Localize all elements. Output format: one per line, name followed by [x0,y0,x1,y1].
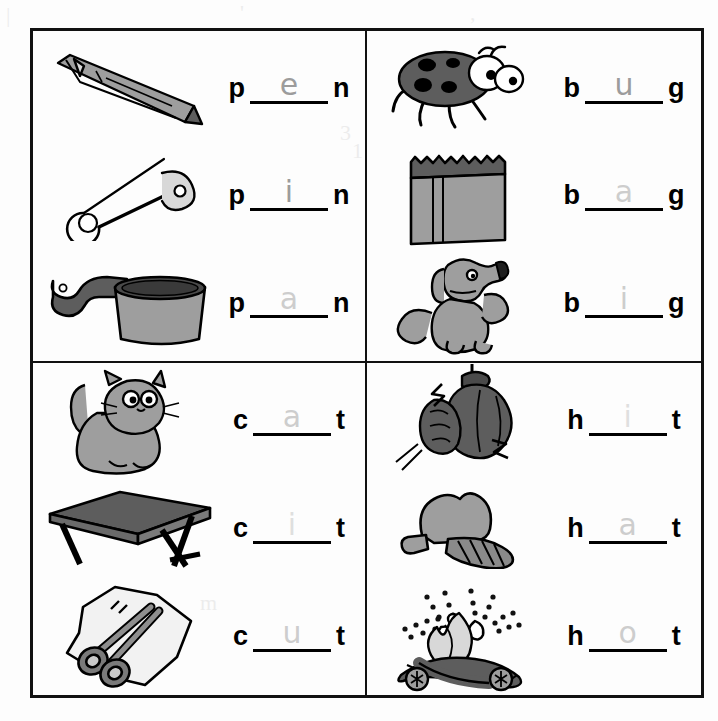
handwritten-answer: a [250,284,328,314]
quadrant-pen-family: p e n [33,31,367,363]
word-tail-letter: t [672,515,681,542]
scissors-paper-icon [39,583,219,691]
word-lead-letter: b [564,290,581,317]
exercise-row-pen: p e n [33,35,365,142]
quadrant-hat-family: h i t [367,363,701,695]
exercise-row-big: b i g [367,250,701,357]
word-slot-bug: b u g [553,74,695,104]
word-tail-letter: g [668,182,685,209]
exercise-row-cut: c u t [33,583,365,691]
word-slot-hit: h i t [553,406,695,436]
scan-speck: , [470,0,476,26]
word-lead-letter: p [229,182,246,209]
handwritten-answer: i [585,284,663,314]
word-slot-cut: c u t [219,622,359,652]
word-slot-cat: c a t [219,406,359,436]
word-tail-letter: n [333,290,350,317]
handwritten-answer: i [250,177,328,207]
word-tail-letter: n [333,75,350,102]
answer-blank[interactable]: i [250,181,328,211]
quadrant-bug-family: b u g [367,31,701,363]
pen-icon [39,35,219,142]
exercise-row-pan: p a n [33,250,365,357]
punching-bag-icon [373,367,553,475]
word-lead-letter: c [233,623,248,650]
worksheet-grid: p e n [30,28,704,698]
exercise-row-cot: c i t [33,475,365,583]
word-lead-letter: p [229,290,246,317]
answer-blank[interactable]: e [250,74,328,104]
word-lead-letter: h [567,515,584,542]
handwritten-answer: u [585,70,663,100]
handwritten-answer: a [585,177,663,207]
safety-pin-icon [39,142,219,249]
word-lead-letter: c [233,407,248,434]
word-slot-big: b i g [553,288,695,318]
answer-blank[interactable]: a [250,288,328,318]
exercise-row-hot: h o t [367,583,701,691]
word-tail-letter: t [336,515,345,542]
handwritten-answer: a [253,402,331,432]
exercise-row-hit: h i t [367,367,701,475]
word-slot-pin: p i n [219,181,359,211]
word-lead-letter: b [564,75,581,102]
cat-icon [39,367,219,475]
word-slot-hot: h o t [553,622,695,652]
exercise-row-pin: p i n [33,142,365,249]
cot-table-icon [39,475,219,583]
word-lead-letter: p [229,75,246,102]
word-lead-letter: h [567,623,584,650]
handwritten-answer: o [589,618,667,648]
paper-bag-icon [373,142,553,249]
answer-blank[interactable]: o [589,622,667,652]
exercise-row-hat: h a t [367,475,701,583]
word-tail-letter: g [668,75,685,102]
word-tail-letter: t [336,623,345,650]
word-tail-letter: t [672,407,681,434]
answer-blank[interactable]: a [253,406,331,436]
word-tail-letter: g [668,290,685,317]
handwritten-answer: u [253,618,331,648]
handwritten-answer: a [589,510,667,540]
answer-blank[interactable]: a [589,514,667,544]
exercise-row-bug: b u g [367,35,701,142]
worksheet-page: | ' , 3 1 m [0,0,718,721]
answer-blank[interactable]: i [253,514,331,544]
quadrant-cat-family: c a t [33,363,367,695]
word-slot-hat: h a t [553,514,695,544]
answer-blank[interactable]: i [585,288,663,318]
word-tail-letter: n [333,182,350,209]
exercise-row-cat: c a t [33,367,365,475]
word-slot-bag: b a g [553,181,695,211]
handwritten-answer: i [253,510,331,540]
word-slot-cot: c i t [219,514,359,544]
handwritten-answer: e [250,70,328,100]
word-slot-pen: p e n [219,74,359,104]
campfire-icon [373,583,553,691]
scan-speck: | [6,2,10,28]
word-lead-letter: c [233,515,248,542]
word-tail-letter: t [336,407,345,434]
answer-blank[interactable]: a [585,181,663,211]
word-lead-letter: b [564,182,581,209]
answer-blank[interactable]: u [253,622,331,652]
dog-icon [373,250,553,357]
scan-speck: ' [240,0,244,26]
answer-blank[interactable]: u [585,74,663,104]
handwritten-answer: i [589,402,667,432]
ladybug-icon [373,35,553,142]
word-slot-pan: p a n [219,288,359,318]
answer-blank[interactable]: i [589,406,667,436]
exercise-row-bag: b a g [367,142,701,249]
word-tail-letter: t [672,623,681,650]
word-lead-letter: h [567,407,584,434]
saucepan-icon [39,250,219,357]
cap-icon [373,475,553,583]
